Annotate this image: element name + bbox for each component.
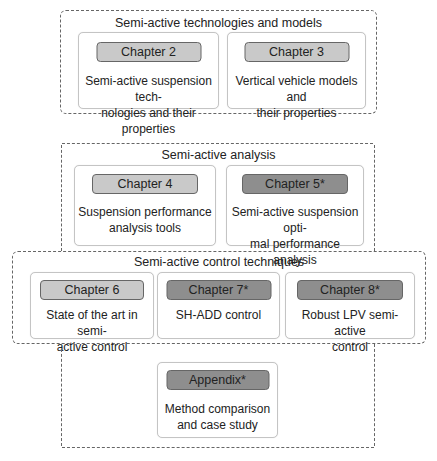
appendix-card: Appendix* Method comparison and case stu… [157,362,278,438]
chapter-3-label: Chapter 3 [244,42,349,62]
appendix-bottom-border [62,447,374,448]
chapter-4-card: Chapter 4 Suspension performance analysi… [74,165,216,246]
chapter-2-card: Chapter 2 Semi-active suspension tech- n… [78,32,219,109]
chapter-6-label: Chapter 6 [40,280,144,300]
chapter-3-card: Chapter 3 Vertical vehicle models and th… [227,32,366,109]
chapter-7-label: Chapter 7* [166,280,271,300]
chapter-5-card: Chapter 5* Semi-active suspension opti- … [226,165,364,246]
chapter-8-label: Chapter 8* [297,280,403,300]
chapter-8-desc: Robust LPV semi-active control [288,307,412,355]
group-title: Semi-active control techniques [13,255,425,269]
chapter-8-card: Chapter 8* Robust LPV semi-active contro… [285,272,415,339]
group-title: Semi-active technologies and models [61,16,376,30]
chapter-5-label: Chapter 5* [242,174,348,194]
appendix-desc: Method comparison and case study [160,401,275,433]
chapter-4-desc: Suspension performance analysis tools [77,204,213,236]
appendix-right-border [374,344,375,446]
appendix-label: Appendix* [166,370,269,390]
analysis-top-border [62,143,373,144]
chapter-3-desc: Vertical vehicle models and their proper… [230,73,363,121]
chapter-6-card: Chapter 6 State of the art in semi- acti… [30,272,154,339]
appendix-left-border [61,344,62,446]
chapter-2-desc: Semi-active suspension tech- nologies an… [81,73,216,137]
chapter-4-label: Chapter 4 [92,174,198,194]
chapter-2-label: Chapter 2 [96,42,201,62]
chapter-7-card: Chapter 7* SH-ADD control [157,272,280,339]
chapter-7-desc: SH-ADD control [160,307,277,323]
chapter-6-desc: State of the art in semi- active control [33,307,151,355]
group-title: Semi-active analysis [0,148,437,162]
